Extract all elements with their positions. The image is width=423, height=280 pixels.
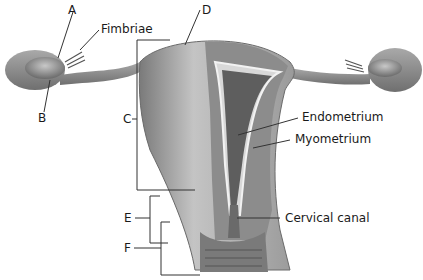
label-e: E (124, 212, 132, 224)
label-a: A (68, 4, 76, 16)
cervical-canal-shape (228, 205, 240, 238)
label-c: C (123, 113, 131, 125)
label-fimbriae: Fimbriae (101, 23, 153, 35)
label-d: D (202, 4, 211, 16)
uterus-diagram: A Fimbriae B C D Endometrium Myometrium … (0, 0, 423, 280)
right-ovary (368, 59, 402, 77)
left-fallopian-tube (5, 50, 140, 90)
left-ovary (25, 57, 65, 79)
label-b: B (38, 112, 46, 124)
label-endometrium: Endometrium (302, 111, 384, 123)
label-cervical-canal: Cervical canal (285, 212, 369, 224)
label-myometrium: Myometrium (295, 133, 371, 145)
right-fallopian-tube (290, 48, 422, 92)
label-f: F (124, 242, 131, 254)
